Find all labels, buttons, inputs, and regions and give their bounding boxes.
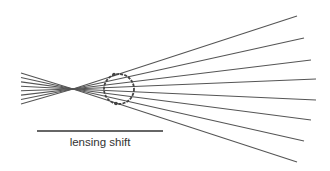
incoming-ray-bundle bbox=[21, 73, 73, 104]
outgoing-ray bbox=[73, 16, 297, 89]
outgoing-ray bbox=[73, 89, 297, 162]
outgoing-ray bbox=[73, 89, 316, 100]
scale-bar-label: lensing shift bbox=[70, 136, 132, 148]
lens-marker-bottom bbox=[114, 102, 118, 106]
incoming-ray bbox=[21, 89, 73, 104]
lens-marker-top bbox=[112, 73, 116, 77]
lensing-diagram: lensing shift bbox=[0, 0, 330, 171]
